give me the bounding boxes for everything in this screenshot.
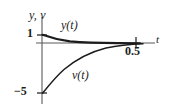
curve-label-y-of-t: y(t)	[61, 19, 78, 31]
tick-label-y-one: 1	[27, 27, 33, 39]
axis-label-vertical: y, v	[29, 9, 46, 21]
plot-figure: y, v t 1 −5 0.5 y(t) v(t)	[0, 0, 173, 112]
axis-label-horizontal: t	[156, 34, 159, 45]
curve-y-of-t	[43, 35, 141, 43]
tick-label-x-half: 0.5	[125, 45, 140, 57]
curve-label-v-of-t: v(t)	[72, 69, 89, 81]
tick-label-y-minus-five: −5	[14, 85, 27, 97]
